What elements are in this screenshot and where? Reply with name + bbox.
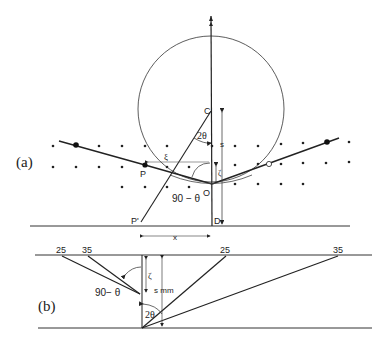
label-c: C [204, 106, 211, 116]
label-p: P [140, 169, 146, 179]
label-o: O [203, 188, 210, 198]
label-ninety-theta-b: 90− θ [95, 287, 121, 298]
tick-left-25: 25 [56, 245, 66, 255]
label-s-a: s [220, 140, 224, 149]
label-zeta-a: ζ [218, 169, 222, 178]
label-two-theta-a: 2θ [197, 130, 207, 141]
label-p-prime: P' [131, 216, 139, 226]
ninety-theta-arc-b [125, 267, 141, 275]
diagram-canvas: (a) C O P P' D 2θ 90 − θ s x ξ ζ (b) 25 … [0, 0, 386, 346]
label-xi: ξ [164, 152, 168, 162]
vertical-axis [211, 16, 212, 226]
label-s-mm: s mm [154, 286, 174, 295]
big-dot-right [324, 139, 330, 145]
tick-right-35: 35 [333, 245, 343, 255]
open-circle [266, 161, 271, 166]
tick-right-25: 25 [220, 245, 230, 255]
label-two-theta-b: 2θ [145, 309, 155, 320]
beam-left [59, 141, 212, 184]
label-x: x [173, 233, 177, 242]
panel-b-label: (b) [38, 298, 56, 315]
beam-right [212, 138, 339, 184]
panel-a: (a) C O P P' D 2θ 90 − θ s x ξ ζ [16, 16, 350, 242]
label-d: D [214, 216, 221, 226]
tick-left-35: 35 [82, 245, 92, 255]
ninety-theta-arc [192, 163, 210, 177]
label-zeta-b: ζ [148, 271, 152, 281]
panel-b: (b) 25 35 25 35 90− θ 2θ s mm ζ [35, 245, 372, 328]
top-arrow-icon [209, 16, 213, 26]
label-ninety-theta-a: 90 − θ [172, 193, 201, 204]
big-dot-left [73, 142, 79, 148]
panel-a-label: (a) [16, 154, 33, 171]
point-p-dot [142, 162, 147, 167]
